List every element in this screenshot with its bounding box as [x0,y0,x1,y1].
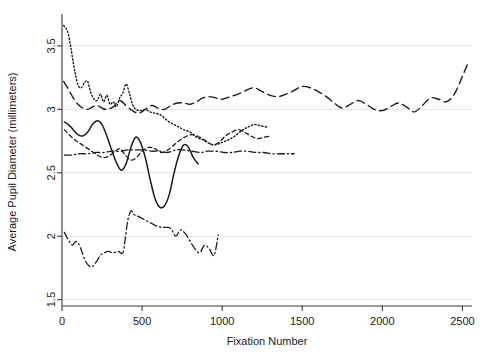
x-tick-label-0: 0 [59,315,65,327]
x-axis-title: Fixation Number [227,335,308,347]
x-tick-label-1500: 1500 [290,315,314,327]
y-axis-title: Average Pupil Diameter (millimeters) [6,73,18,252]
y-tick-label-2.5: 2.5 [45,165,57,180]
y-tick-label-2: 2 [45,233,57,239]
x-tick-label-2500: 2500 [450,315,474,327]
y-tick-label-1.5: 1.5 [45,292,57,307]
x-tick-label-1000: 1000 [210,315,234,327]
y-tick-label-3.5: 3.5 [45,38,57,53]
chart-canvas: 05001000150020002500 1.522.533.5 Fixatio… [0,0,480,356]
x-tick-label-2000: 2000 [370,315,394,327]
y-tick-label-3: 3 [45,106,57,112]
x-tick-label-500: 500 [133,315,151,327]
